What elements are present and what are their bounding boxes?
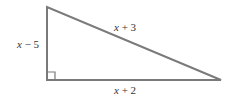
vertical-leg-label: x − 5 [16, 38, 40, 50]
right-angle-marker-icon [47, 72, 55, 80]
label-rest: − 5 [22, 38, 40, 50]
label-rest: + 3 [119, 21, 137, 33]
horizontal-leg-label: x + 2 [113, 84, 136, 96]
label-rest: + 2 [119, 84, 136, 96]
hypotenuse-label: x + 3 [113, 21, 137, 33]
right-triangle-diagram: x − 5 x + 3 x + 2 [0, 0, 230, 102]
triangle-outline [47, 7, 221, 80]
